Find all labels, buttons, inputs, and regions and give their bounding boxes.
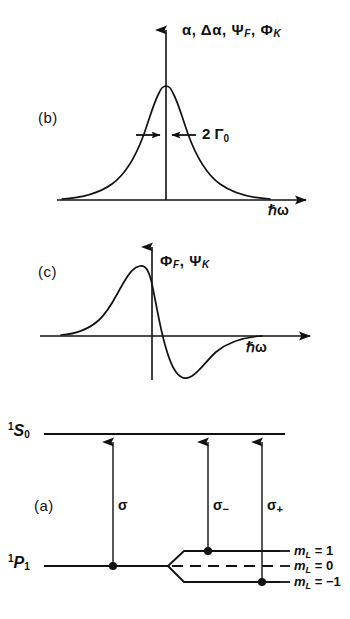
linewidth-prefix: 2 Γ [202, 125, 224, 142]
transition-label-sigma: σ [118, 498, 128, 515]
sublevel-label-mL-zero: mL = 0 [294, 559, 333, 575]
upper-J: 0 [24, 429, 30, 440]
panel-b-linewidth-annotation: 2 Γ0 [202, 126, 229, 144]
state-dot-mL-plus1 [204, 547, 212, 555]
mL-1-eq: = 1 [315, 543, 333, 558]
lower-J: 1 [24, 561, 30, 572]
lower-letter: P [14, 554, 25, 571]
panel-b-y-axis-label: α, Δα, ΨF, ΦK [182, 22, 281, 39]
mL-m1-m: m [294, 574, 306, 589]
sigma-symbol: σ [118, 497, 128, 513]
sigma-plus-symbol: σ [267, 497, 277, 513]
sublevel-line-mL-plus1 [168, 551, 280, 566]
y-label-part-psi: Ψ [232, 21, 245, 38]
mL-1-m: m [294, 543, 306, 558]
panel-c-y-axis-label: ΦF, ΨK [160, 253, 210, 270]
comma-3: , [251, 21, 261, 38]
panel-b-graph [57, 30, 306, 200]
panel-b-x-axis-label: ℏω [268, 203, 289, 217]
mL-0-eq: = 0 [315, 558, 333, 573]
comma-1: , [192, 21, 201, 38]
state-dot-unsplit [109, 562, 117, 570]
state-dot-mL-minus1 [258, 578, 266, 586]
c-label-part-phi: Φ [160, 252, 173, 269]
y-label-sub-K: K [274, 28, 282, 39]
sublevel-label-mL-minus1: mL = −1 [294, 575, 341, 591]
upper-letter: S [14, 422, 25, 439]
mL-m1-eq: = −1 [315, 574, 341, 589]
y-label-part-delta-alpha: Δα [201, 21, 222, 38]
mL-0-m: m [294, 558, 306, 573]
c-label-sub-F: F [173, 259, 180, 270]
c-comma: , [180, 252, 190, 269]
physics-figure: (b) α, Δα, ΨF, ΦK ℏω 2 Γ0 (c) ΦF, ΨK ℏω … [0, 0, 350, 619]
c-label-part-psi: Ψ [189, 252, 202, 269]
transition-label-sigma-minus: σ− [213, 498, 229, 515]
c-label-sub-K: K [202, 259, 210, 270]
transition-label-sigma-plus: σ+ [267, 498, 283, 515]
y-label-part-alpha: α [182, 21, 192, 38]
panel-tag-b: (b) [38, 110, 58, 125]
level-label-lower: 1P1 [8, 554, 30, 572]
panel-tag-c: (c) [38, 264, 57, 279]
panel-c-dispersive-curve [61, 266, 262, 378]
sigma-minus-sub: − [223, 503, 229, 515]
sigma-plus-sub: + [277, 503, 283, 515]
figure-canvas [0, 0, 350, 619]
comma-2: , [222, 21, 232, 38]
panel-a-level-diagram [44, 434, 290, 586]
panel-c-x-axis-label: ℏω [246, 340, 267, 354]
y-label-part-phi: Φ [261, 21, 274, 38]
linewidth-sub: 0 [224, 133, 230, 144]
level-label-upper: 1S0 [8, 422, 30, 440]
sigma-minus-symbol: σ [213, 497, 223, 513]
panel-tag-a: (a) [34, 498, 54, 513]
